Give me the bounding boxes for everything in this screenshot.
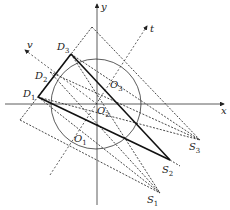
- point-O1-label: O1: [74, 134, 87, 147]
- point-O3-label: O3: [110, 80, 123, 93]
- point-S1-label: S1: [147, 195, 158, 208]
- geometry-diagram: y x v t D3 D2 D1 O3 O2 O1 S3 S2 S1: [0, 0, 230, 210]
- point-O2-label: O2: [97, 106, 110, 119]
- point-S2-label: S2: [162, 165, 173, 178]
- t-label: t: [150, 24, 154, 34]
- y-axis-label: y: [101, 2, 107, 12]
- x-axis-label: x: [221, 106, 227, 116]
- diagram-canvas: [0, 0, 230, 210]
- point-S3-label: S3: [189, 142, 200, 155]
- point-D1-label: D1: [23, 89, 36, 102]
- point-D3-label: D3: [57, 42, 70, 55]
- point-D2-label: D2: [35, 71, 48, 84]
- v-label: v: [27, 40, 33, 50]
